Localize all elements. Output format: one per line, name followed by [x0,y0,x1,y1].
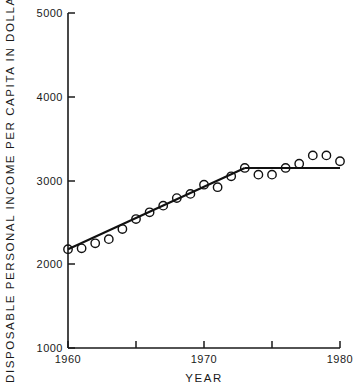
y-axis-title: DISPOSABLE PERSONAL INCOME PER CAPITA IN… [4,0,16,383]
data-point-1980 [336,157,344,165]
x-tick-label-1970: 1970 [191,353,217,365]
x-tick-label-1980: 1980 [327,353,353,365]
data-point-1964 [118,225,126,233]
x-axis-title: YEAR [185,372,223,384]
data-point-1979 [322,151,330,159]
data-point-1975 [268,170,276,178]
y-tick-label-2000: 2000 [37,258,63,270]
chart-figure: 5000 4000 3000 2000 1000 1960 1970 1980 [0,0,357,386]
y-axis-ticks [68,13,75,348]
trend-line-rising [68,168,245,249]
y-tick-label-5000: 5000 [37,7,63,19]
data-point-1963 [105,235,113,243]
chart-canvas: 5000 4000 3000 2000 1000 1960 1970 1980 [0,0,357,386]
data-point-1971 [213,183,221,191]
y-axis-tick-labels: 5000 4000 3000 2000 1000 [37,7,63,354]
data-point-markers [64,151,344,253]
data-point-1978 [309,151,317,159]
y-tick-label-4000: 4000 [37,91,63,103]
data-point-1974 [254,170,262,178]
data-point-1962 [91,239,99,247]
x-axis-ticks [68,341,340,348]
data-point-1961 [77,244,85,252]
data-point-1977 [295,160,303,168]
x-tick-label-1960: 1960 [55,353,81,365]
y-tick-label-3000: 3000 [37,175,63,187]
x-axis-tick-labels: 1960 1970 1980 [55,353,353,365]
